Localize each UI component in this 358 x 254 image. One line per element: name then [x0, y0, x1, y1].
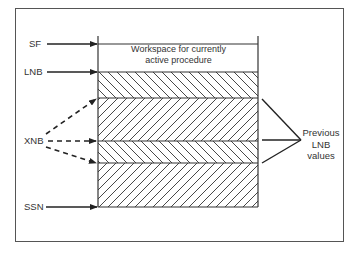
previous-label-line1: Previous: [298, 127, 344, 139]
previous-label-line3: values: [298, 150, 344, 162]
sf-label: SF: [29, 38, 41, 49]
ssn-label: SSN: [24, 201, 44, 212]
prev-lnb-line-3: [262, 140, 301, 163]
workspace-label-line1: Workspace for currently: [99, 44, 258, 55]
xnb-arrow-3: [46, 147, 96, 163]
band-1: [98, 72, 258, 98]
xnb-arrow-1: [46, 99, 96, 134]
previous-label-line2: LNB: [298, 139, 344, 151]
band-4: [98, 163, 258, 207]
workspace-label-line2: active procedure: [99, 55, 258, 66]
band-2: [98, 98, 258, 141]
lnb-label: LNB: [24, 66, 42, 77]
workspace-label: Workspace for currently active procedure: [99, 44, 258, 66]
previous-lnb-label: Previous LNB values: [298, 127, 344, 162]
prev-lnb-line-1: [262, 99, 301, 140]
xnb-label: XNB: [24, 135, 44, 146]
band-3: [98, 141, 258, 163]
